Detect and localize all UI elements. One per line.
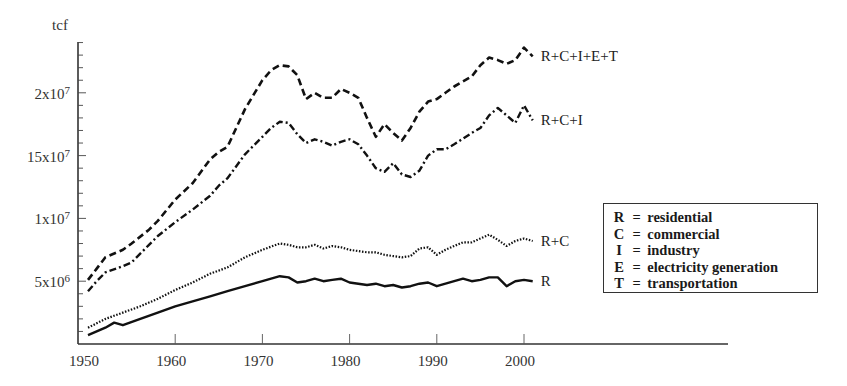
legend-equals: = bbox=[630, 209, 644, 226]
legend-equals: = bbox=[630, 259, 644, 276]
series-line-r-c-i-e-t bbox=[88, 48, 533, 280]
legend-row-transportation: T = transportation bbox=[612, 275, 817, 292]
legend-desc: residential bbox=[647, 209, 712, 225]
legend-desc: transportation bbox=[647, 275, 737, 291]
y-tick-label: 2x107 bbox=[35, 84, 71, 102]
series-label: R+C+I+E+T bbox=[541, 48, 618, 64]
x-tick-label: 2000 bbox=[505, 353, 535, 369]
y-tick-labels: 2x10715x1071x1075x106 bbox=[27, 84, 71, 290]
y-axis-unit-label: tcf bbox=[52, 17, 68, 33]
legend-equals: = bbox=[630, 226, 644, 243]
series-label: R bbox=[541, 273, 551, 289]
x-tick-label: 1990 bbox=[418, 353, 448, 369]
legend-key: T bbox=[612, 275, 626, 292]
legend-row-electricity-generation: E = electricity generation bbox=[612, 259, 817, 276]
y-minor-ticks bbox=[78, 43, 86, 332]
legend-key: C bbox=[612, 226, 626, 243]
x-tick-labels: 195019601970198019902000 bbox=[69, 353, 535, 369]
legend-key: R bbox=[612, 209, 626, 226]
legend-box: R = residential C = commercial I = indus… bbox=[603, 203, 818, 293]
legend-row-industry: I = industry bbox=[612, 242, 817, 259]
y-tick-label: 1x107 bbox=[35, 209, 71, 227]
legend-desc: electricity generation bbox=[647, 259, 778, 275]
axes bbox=[78, 42, 728, 344]
x-tick-label: 1960 bbox=[156, 353, 186, 369]
series-lines bbox=[88, 48, 533, 336]
legend-key: I bbox=[612, 242, 626, 259]
legend-row-residential: R = residential bbox=[612, 209, 817, 226]
series-line-r bbox=[88, 276, 533, 335]
legend-equals: = bbox=[630, 275, 644, 292]
legend-desc: commercial bbox=[647, 226, 719, 242]
series-label: R+C+I bbox=[541, 112, 583, 128]
x-ticks bbox=[175, 334, 524, 344]
y-tick-label: 15x107 bbox=[27, 147, 71, 165]
series-label: R+C bbox=[541, 233, 569, 249]
legend-row-commercial: C = commercial bbox=[612, 226, 817, 243]
x-tick-label: 1980 bbox=[331, 353, 361, 369]
x-tick-label: 1950 bbox=[69, 353, 99, 369]
energy-consumption-chart: tcf 2x10715x1071x1075x106 19501960197019… bbox=[0, 0, 847, 386]
series-line-r-c-i bbox=[88, 105, 533, 291]
y-tick-label: 5x106 bbox=[35, 272, 71, 290]
legend-desc: industry bbox=[647, 242, 699, 258]
legend-equals: = bbox=[630, 242, 644, 259]
x-tick-label: 1970 bbox=[243, 353, 273, 369]
legend-key: E bbox=[612, 259, 626, 276]
